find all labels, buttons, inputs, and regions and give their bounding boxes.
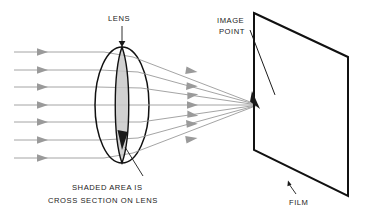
shaded-area-label-line1: SHADED AREA IS xyxy=(72,183,143,192)
incoming-ray-arrowhead xyxy=(37,101,48,109)
incoming-ray-arrowhead xyxy=(37,48,48,56)
shaded-area-label-line2: CROSS SECTION ON LENS xyxy=(48,196,158,205)
converging-ray-arrowhead xyxy=(185,136,197,144)
incoming-ray xyxy=(14,118,97,126)
incoming-rays-group xyxy=(14,48,104,162)
incoming-ray xyxy=(14,66,101,74)
incoming-ray xyxy=(14,154,104,162)
converging-ray-line xyxy=(138,105,258,138)
image-point-label-line1: IMAGE xyxy=(217,16,244,25)
converging-ray-line xyxy=(133,57,258,105)
converging-ray xyxy=(138,72,258,105)
incoming-ray xyxy=(14,83,97,91)
film-leader-line xyxy=(289,184,296,194)
converging-ray-line xyxy=(141,105,258,122)
film-label: FILM xyxy=(289,198,309,207)
converging-ray xyxy=(141,105,258,122)
incoming-ray-arrowhead xyxy=(37,154,48,162)
converging-ray-line xyxy=(141,88,258,105)
incoming-ray-arrowhead xyxy=(37,83,48,91)
film-leader-arrowhead xyxy=(287,181,291,187)
incoming-ray xyxy=(14,48,104,56)
converging-ray xyxy=(141,88,258,105)
film-plane xyxy=(254,13,348,196)
incoming-ray xyxy=(14,136,101,144)
image-point-label-line2: POINT xyxy=(219,27,245,36)
converging-ray-arrowhead xyxy=(186,82,198,90)
annotation-lens: LENS xyxy=(108,14,130,47)
converging-ray-line xyxy=(133,105,258,153)
annotation-shaded-area: SHADED AREA IS CROSS SECTION ON LENS xyxy=(48,130,158,205)
incoming-ray-arrowhead xyxy=(37,136,48,144)
converging-ray-arrowhead xyxy=(186,120,198,128)
converging-ray xyxy=(138,105,258,138)
converging-rays-group xyxy=(133,57,258,153)
converging-ray-line xyxy=(138,72,258,105)
annotation-film: FILM xyxy=(287,181,308,208)
converging-ray-arrowhead xyxy=(185,67,197,75)
incoming-ray-arrowhead xyxy=(37,118,48,126)
lens-leader-arrowhead xyxy=(119,41,126,47)
converging-ray xyxy=(133,57,258,105)
converging-ray xyxy=(133,105,258,153)
converging-ray-arrowhead xyxy=(187,101,198,109)
optics-diagram-canvas: LENS IMAGE POINT FILM SHADED AREA IS CRO… xyxy=(0,0,365,218)
optics-diagram: LENS IMAGE POINT FILM SHADED AREA IS CRO… xyxy=(0,0,365,218)
incoming-ray-arrowhead xyxy=(37,66,48,74)
lens-label: LENS xyxy=(108,14,130,23)
incoming-ray xyxy=(14,101,96,109)
